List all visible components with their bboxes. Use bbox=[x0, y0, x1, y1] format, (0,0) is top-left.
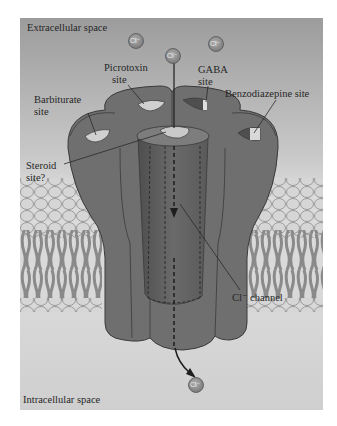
extracellular-space-label: Extracellular space bbox=[27, 22, 107, 34]
intracellular-space-label: Intracellular space bbox=[23, 394, 100, 406]
chloride-channel-label: Cl⁻ channel bbox=[232, 292, 283, 304]
ion-symbol: Cl⁻ bbox=[167, 50, 177, 62]
picrotoxin-site-label-line1: Picrotoxin bbox=[104, 62, 148, 74]
benzodiazepine-site-label: Benzodiazepine site bbox=[225, 88, 309, 100]
gaba-site-label-line1: GABA bbox=[198, 64, 228, 76]
ion-symbol: Cl⁻ bbox=[210, 38, 220, 50]
gaba-receptor-diagram bbox=[20, 18, 323, 410]
ion-symbol: Cl⁻ bbox=[130, 35, 140, 47]
diagram-frame: Cl⁻ Cl⁻ Cl⁻ Cl⁻ Extracellular space Picr… bbox=[20, 18, 323, 410]
barbiturate-site-label-line2: site bbox=[34, 106, 49, 118]
gaba-site-label-line2: site bbox=[198, 76, 213, 88]
barbiturate-site-label-line1: Barbiturate bbox=[34, 94, 81, 106]
picrotoxin-site-label-line2: site bbox=[112, 74, 127, 86]
steroid-site-label-line1: Steroid bbox=[26, 160, 56, 172]
steroid-site-label-line2: site? bbox=[26, 172, 45, 184]
ion-symbol: Cl⁻ bbox=[190, 379, 200, 391]
